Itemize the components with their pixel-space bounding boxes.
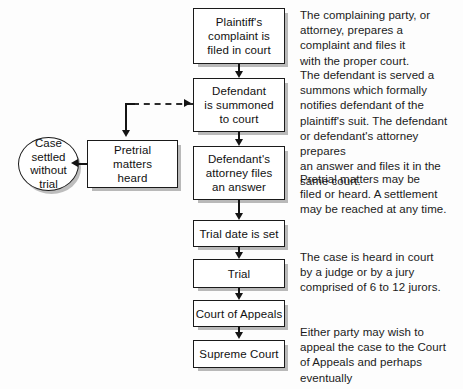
- node-defendant-answer: Defendant's attorney files an answer: [193, 146, 285, 200]
- node-trial-date-set: Trial date is set: [193, 220, 285, 247]
- flowchart-canvas: Plaintiff's complaint is filed in court …: [0, 0, 463, 389]
- note-pretrial: Pretrial matters may be filed or heard. …: [300, 172, 460, 218]
- note-complaint: The complaining party, or attorney, prep…: [300, 8, 460, 69]
- connector-pretrial-elbow-down: [125, 103, 127, 130]
- arrowhead-pretrial-down: [122, 130, 130, 137]
- arrowhead-answer-to-trial-date: [235, 213, 243, 220]
- node-case-settled: Case settled without trial: [18, 137, 79, 191]
- arrowhead-trial-date-to-trial: [235, 252, 243, 259]
- node-defendant-summoned: Defendant is summoned to court: [193, 78, 285, 132]
- arrowhead-complaint-to-summons: [235, 71, 243, 78]
- connector-pretrial-to-settled: [78, 163, 88, 165]
- connector-answer-to-trial-date: [238, 200, 240, 213]
- node-pretrial-matters: Pretrial matters heard: [87, 140, 178, 188]
- node-supreme-court: Supreme Court: [193, 340, 285, 368]
- arrowhead-summons-to-pretrial: [184, 99, 191, 107]
- note-appeals: Either party may wish to appeal the case…: [300, 325, 463, 389]
- node-trial: Trial: [193, 259, 285, 288]
- node-plaintiff-complaint: Plaintiff's complaint is filed in court: [193, 8, 285, 64]
- note-trial: The case is heard in court by a judge or…: [300, 250, 460, 296]
- arrowhead-pretrial-to-settled: [71, 159, 78, 167]
- arrowhead-summons-to-answer: [235, 139, 243, 146]
- node-court-of-appeals: Court of Appeals: [193, 300, 285, 327]
- arrowhead-trial-to-appeals: [235, 293, 243, 300]
- arrowhead-appeals-to-supreme: [235, 332, 243, 339]
